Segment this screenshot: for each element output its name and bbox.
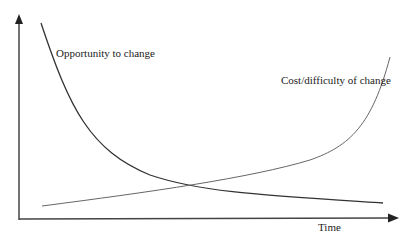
x-axis-label: Time <box>318 221 341 233</box>
x-axis-arrow-icon <box>388 214 399 223</box>
cost-label: Cost/difficulty of change <box>281 74 391 86</box>
opportunity-label: Opportunity to change <box>56 47 155 59</box>
x-axis <box>19 218 390 219</box>
y-axis-arrow-icon <box>15 14 23 24</box>
chart-canvas <box>0 0 415 243</box>
